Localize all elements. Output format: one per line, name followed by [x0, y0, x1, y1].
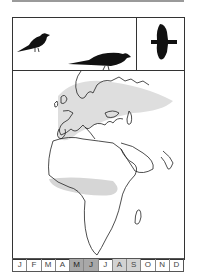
- month-nov: N: [156, 259, 170, 271]
- panel-divider: [136, 18, 137, 70]
- perched-bird-large-icon: [68, 53, 131, 70]
- month-jan: J: [13, 259, 27, 271]
- month-apr: A: [56, 259, 70, 271]
- month-mar: M: [42, 259, 56, 271]
- month-oct: O: [141, 259, 155, 271]
- month-jun: J: [84, 259, 98, 271]
- month-aug: A: [113, 259, 127, 271]
- month-sep: S: [127, 259, 141, 271]
- month-jul: J: [99, 259, 113, 271]
- bird-silhouettes: [13, 18, 184, 70]
- month-dec: D: [170, 259, 183, 271]
- top-rule: [12, 0, 184, 2]
- range-map: [13, 71, 184, 259]
- month-strip: J F M A M J J A S O N D: [12, 258, 184, 272]
- flying-bird-icon: [151, 24, 177, 60]
- species-card: [12, 17, 185, 260]
- map-outline: [13, 71, 184, 259]
- month-may: M: [70, 259, 84, 271]
- perched-bird-small-icon: [17, 33, 50, 52]
- month-feb: F: [27, 259, 41, 271]
- silhouette-panel: [13, 18, 184, 71]
